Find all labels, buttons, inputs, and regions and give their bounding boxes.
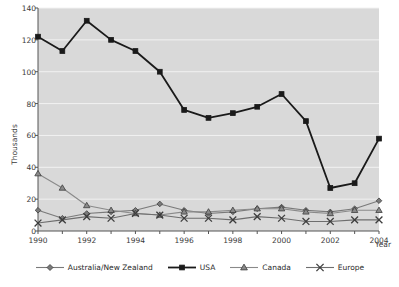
legend-swatch-square-icon — [167, 262, 197, 273]
square-marker — [60, 49, 65, 54]
legend-item-canada[interactable]: Canada — [229, 262, 291, 273]
data-point-square — [109, 37, 114, 42]
square-marker — [84, 18, 89, 23]
square-marker — [304, 119, 309, 124]
data-point-square — [304, 119, 309, 124]
legend-label: USA — [200, 263, 216, 272]
legend-swatch-diamond-icon — [35, 262, 65, 273]
square-marker — [230, 111, 235, 116]
legend-label: Australia/New Zealand — [68, 263, 153, 272]
data-point-square — [84, 18, 89, 23]
legend-swatch-cross-icon — [305, 262, 335, 273]
square-marker — [377, 136, 382, 141]
data-point-square — [182, 108, 187, 113]
plot-area — [0, 0, 399, 287]
square-marker — [279, 92, 284, 97]
data-point-square — [255, 104, 260, 109]
legend-swatch-triangle-icon — [229, 262, 259, 273]
square-marker — [179, 265, 184, 270]
legend-label: Europe — [338, 263, 364, 272]
legend-item-australia-new-zealand[interactable]: Australia/New Zealand — [35, 262, 153, 273]
square-marker — [157, 69, 162, 74]
data-point-square — [352, 181, 357, 186]
chart-legend: Australia/New ZealandUSACanadaEurope — [0, 262, 399, 273]
legend-item-europe[interactable]: Europe — [305, 262, 364, 273]
data-point-square — [36, 34, 41, 39]
data-point-square — [60, 49, 65, 54]
diamond-marker — [47, 265, 53, 271]
square-marker — [352, 181, 357, 186]
legend-label: Canada — [262, 263, 291, 272]
data-point-square — [230, 111, 235, 116]
square-marker — [182, 108, 187, 113]
data-point-square — [206, 116, 211, 121]
data-point-square — [157, 69, 162, 74]
legend-item-usa[interactable]: USA — [167, 262, 216, 273]
data-point-square — [279, 92, 284, 97]
square-marker — [109, 37, 114, 42]
data-point-square — [328, 186, 333, 191]
square-marker — [255, 104, 260, 109]
square-marker — [328, 186, 333, 191]
data-point-diamond — [47, 265, 53, 271]
data-point-square — [179, 265, 184, 270]
square-marker — [206, 116, 211, 121]
data-point-square — [377, 136, 382, 141]
square-marker — [133, 49, 138, 54]
data-point-square — [133, 49, 138, 54]
square-marker — [36, 34, 41, 39]
line-chart: Thousands Year 020406080100120140 199019… — [0, 0, 399, 287]
